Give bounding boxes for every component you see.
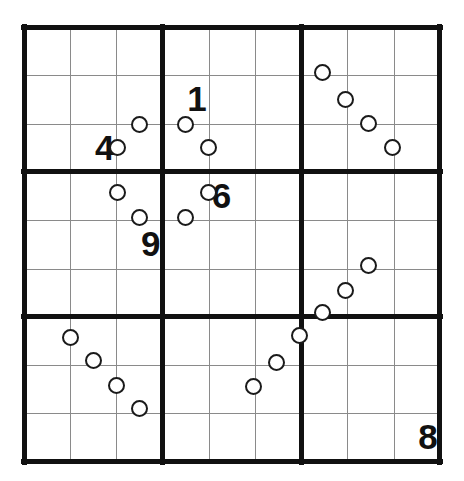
- edge-circle-r4c4-r5c4: [177, 209, 194, 226]
- cell-r4c1[interactable]: [24, 172, 70, 220]
- cell-r9c6[interactable]: [255, 413, 301, 461]
- cell-r6c2[interactable]: [70, 269, 116, 317]
- sudoku-puzzle-root: 14698: [0, 0, 464, 481]
- edge-circle-r7c1-r7c2: [62, 329, 79, 346]
- edge-circle-r2c8-r3c8: [360, 115, 377, 132]
- edge-circle-r2c3-r3c3: [131, 116, 148, 133]
- edge-circle-r4c2-r4c3: [109, 184, 126, 201]
- cell-r1c6[interactable]: [255, 27, 301, 75]
- edge-circle-r8c5-r8c6: [245, 378, 262, 395]
- cell-r7c9[interactable]: [394, 317, 440, 365]
- edge-circle-r3c8-r3c9: [384, 139, 401, 156]
- edge-circle-r4c4-r4c5: [200, 184, 217, 201]
- cell-r1c2[interactable]: [70, 27, 116, 75]
- cell-r7c4[interactable]: [163, 317, 209, 365]
- cell-r5c1[interactable]: [24, 220, 70, 268]
- cell-r1c5[interactable]: [209, 27, 255, 75]
- given-digit-r5c3: 9: [116, 220, 162, 268]
- edge-circle-r7c2-r8c2: [85, 352, 102, 369]
- cell-r8c8[interactable]: [347, 365, 393, 413]
- edge-circle-r5c8-r6c8: [360, 257, 377, 274]
- cell-r1c1[interactable]: [24, 27, 70, 75]
- cell-r2c6[interactable]: [255, 75, 301, 123]
- cell-r7c8[interactable]: [347, 317, 393, 365]
- cell-r5c6[interactable]: [255, 220, 301, 268]
- cell-r6c3[interactable]: [116, 269, 162, 317]
- edge-circle-r1c7-r2c7: [314, 64, 331, 81]
- cell-r2c2[interactable]: [70, 75, 116, 123]
- cell-r2c5[interactable]: [209, 75, 255, 123]
- cell-r1c8[interactable]: [347, 27, 393, 75]
- cell-r9c5[interactable]: [209, 413, 255, 461]
- cell-r6c1[interactable]: [24, 269, 70, 317]
- cell-r8c9[interactable]: [394, 365, 440, 413]
- cell-r2c1[interactable]: [24, 75, 70, 123]
- cell-r8c4[interactable]: [163, 365, 209, 413]
- cell-r8c1[interactable]: [24, 365, 70, 413]
- cell-r5c5[interactable]: [209, 220, 255, 268]
- cell-r8c7[interactable]: [301, 365, 347, 413]
- cell-r4c6[interactable]: [255, 172, 301, 220]
- cell-r7c7[interactable]: [301, 317, 347, 365]
- cell-r2c9[interactable]: [394, 75, 440, 123]
- sudoku-grid[interactable]: 14698: [24, 27, 440, 462]
- cell-r6c5[interactable]: [209, 269, 255, 317]
- cell-r3c9[interactable]: [394, 124, 440, 172]
- cell-r9c7[interactable]: [301, 413, 347, 461]
- cell-r7c3[interactable]: [116, 317, 162, 365]
- given-digit-r9c9: 8: [394, 413, 440, 461]
- edge-circle-r3c4-r3c5: [200, 139, 217, 156]
- cell-r7c5[interactable]: [209, 317, 255, 365]
- edge-circle-r8c2-r8c3: [108, 377, 125, 394]
- edge-circle-r6c7-r7c7: [314, 304, 331, 321]
- edge-circle-r6c7-r6c8: [337, 282, 354, 299]
- cell-r4c7[interactable]: [301, 172, 347, 220]
- cell-r5c9[interactable]: [394, 220, 440, 268]
- edge-circle-r7c6-r7c7: [291, 327, 308, 344]
- cell-r9c1[interactable]: [24, 413, 70, 461]
- cell-r4c9[interactable]: [394, 172, 440, 220]
- cell-r1c3[interactable]: [116, 27, 162, 75]
- cell-r5c2[interactable]: [70, 220, 116, 268]
- cell-r6c8[interactable]: [347, 269, 393, 317]
- cell-r5c4[interactable]: [163, 220, 209, 268]
- cell-r4c8[interactable]: [347, 172, 393, 220]
- cell-r3c6[interactable]: [255, 124, 301, 172]
- edge-circle-r4c3-r5c3: [131, 209, 148, 226]
- cell-r9c3[interactable]: [116, 413, 162, 461]
- cell-r9c4[interactable]: [163, 413, 209, 461]
- cell-r5c7[interactable]: [301, 220, 347, 268]
- cell-r1c9[interactable]: [394, 27, 440, 75]
- cell-r6c9[interactable]: [394, 269, 440, 317]
- cell-r6c4[interactable]: [163, 269, 209, 317]
- cell-r6c6[interactable]: [255, 269, 301, 317]
- edge-circle-r2c4-r3c4: [177, 116, 194, 133]
- edge-circle-r3c2-r3c3: [109, 139, 126, 156]
- cell-r1c4[interactable]: [163, 27, 209, 75]
- edge-circle-r2c7-r2c8: [337, 91, 354, 108]
- cell-r3c1[interactable]: [24, 124, 70, 172]
- cell-r9c2[interactable]: [70, 413, 116, 461]
- edge-circle-r7c6-r8c6: [268, 354, 285, 371]
- cell-r3c7[interactable]: [301, 124, 347, 172]
- cell-r8c6[interactable]: [255, 365, 301, 413]
- cell-r9c8[interactable]: [347, 413, 393, 461]
- edge-circle-r8c3-r9c3: [131, 400, 148, 417]
